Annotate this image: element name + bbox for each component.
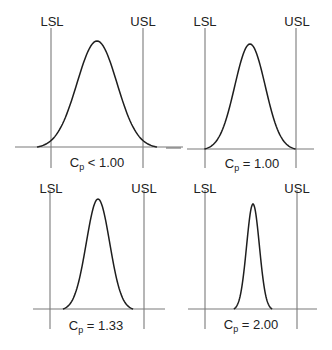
normal-curve xyxy=(37,41,157,147)
cp-caption: Cp = 1.00 xyxy=(225,156,280,173)
capability-plots: LSL USL Cp < 1.00 LSL USL Cp = 1.00 LSL … xyxy=(0,0,332,350)
panel-cp-2: LSL USL Cp = 2.00 xyxy=(188,181,317,334)
panel-cp-eq-1: LSL USL Cp = 1.00 xyxy=(166,14,314,173)
lsl-label: LSL xyxy=(193,181,216,196)
usl-label: USL xyxy=(284,14,309,29)
panel-cp-1-33: LSL USL Cp = 1.33 xyxy=(33,181,165,335)
cp-caption: Cp = 2.00 xyxy=(224,317,279,334)
panel-cp-lt-1: LSL USL Cp < 1.00 xyxy=(15,14,183,172)
normal-curve xyxy=(204,44,295,149)
normal-curve xyxy=(63,199,133,309)
cp-caption: Cp = 1.33 xyxy=(69,318,124,335)
lsl-label: LSL xyxy=(39,181,62,196)
process-capability-figure: LSL USL Cp < 1.00 LSL USL Cp = 1.00 LSL … xyxy=(0,0,332,350)
lsl-label: LSL xyxy=(193,14,216,29)
usl-label: USL xyxy=(131,181,156,196)
lsl-label: LSL xyxy=(40,14,63,29)
usl-label: USL xyxy=(130,14,155,29)
usl-label: USL xyxy=(284,181,309,196)
normal-curve xyxy=(234,204,272,309)
cp-caption: Cp < 1.00 xyxy=(70,155,125,172)
